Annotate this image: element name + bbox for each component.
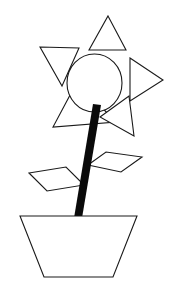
top-petal bbox=[89, 16, 126, 50]
right-leaf bbox=[88, 152, 142, 172]
flower-center-circle bbox=[67, 54, 122, 112]
drawing-canvas: Line drawing of a flower with five trian… bbox=[0, 0, 179, 299]
flower-illustration bbox=[0, 0, 179, 299]
right-petal bbox=[130, 58, 163, 101]
pot bbox=[20, 216, 137, 277]
left-leaf bbox=[29, 167, 84, 191]
